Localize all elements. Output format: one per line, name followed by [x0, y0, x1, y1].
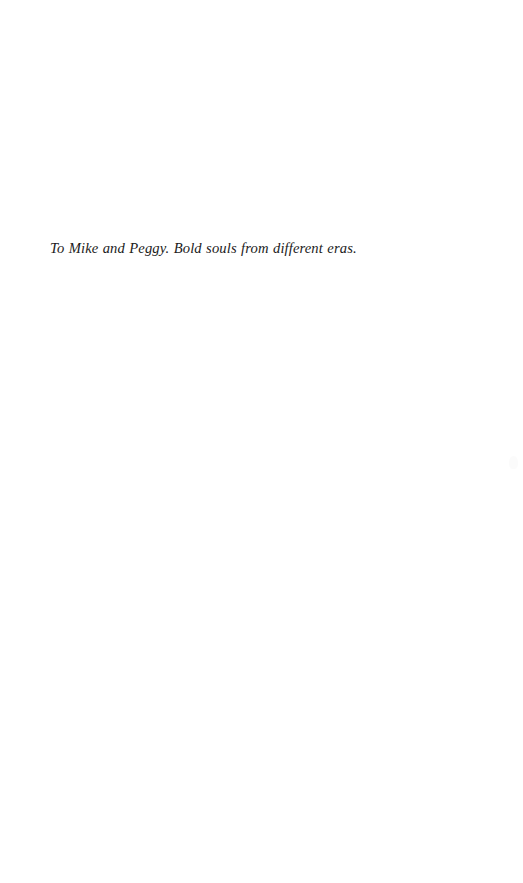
scan-artifact-smudge [509, 456, 518, 469]
dedication-text: To Mike and Peggy. Bold souls from diffe… [50, 238, 470, 258]
document-page: To Mike and Peggy. Bold souls from diffe… [0, 0, 523, 883]
